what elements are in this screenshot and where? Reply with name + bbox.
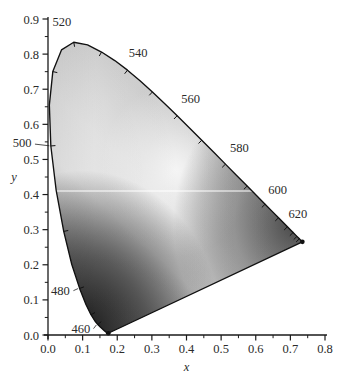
y-tick-label-0.8: 0.8 — [23, 48, 39, 62]
y-tick-label-0.7: 0.7 — [23, 83, 39, 97]
figure-canvas: 460480500520540560580600620 0.00.10.20.3… — [0, 0, 339, 374]
chromaticity-diagram-figure: 460480500520540560580600620 0.00.10.20.3… — [0, 0, 339, 374]
wavelength-label-600: 600 — [268, 183, 287, 197]
x-tick-label-0.7: 0.7 — [283, 342, 299, 356]
wavelength-label-500: 500 — [13, 136, 32, 150]
y-tick-label-0.4: 0.4 — [23, 188, 39, 202]
y-tick-label-0.6: 0.6 — [23, 118, 39, 132]
red-endpoint-dot — [300, 240, 305, 245]
y-tick-label-0.9: 0.9 — [23, 13, 39, 27]
wavelength-label-460: 460 — [72, 322, 91, 336]
wavelength-label-620: 620 — [289, 207, 308, 221]
wavelength-label-580: 580 — [230, 141, 249, 155]
y-tick-label-0.1: 0.1 — [23, 293, 39, 307]
x-axis-title: x — [183, 360, 190, 374]
y-tick-label-0.0: 0.0 — [23, 329, 39, 343]
y-tick-label-0.5: 0.5 — [23, 153, 39, 167]
x-tick-label-0.5: 0.5 — [213, 342, 229, 356]
wavelength-label-540: 540 — [129, 46, 148, 60]
x-tick-label-0.2: 0.2 — [109, 342, 125, 356]
y-axis-title: y — [9, 170, 17, 184]
wavelength-label-480: 480 — [51, 284, 70, 298]
wavelength-label-520: 520 — [52, 15, 71, 29]
x-tick-label-0.4: 0.4 — [179, 342, 195, 356]
wavelength-label-560: 560 — [181, 92, 200, 106]
x-tick-label-0.3: 0.3 — [144, 342, 160, 356]
x-tick-label-0.8: 0.8 — [317, 342, 333, 356]
x-tick-label-0.1: 0.1 — [75, 342, 91, 356]
y-tick-label-0.2: 0.2 — [23, 258, 39, 272]
y-tick-label-0.3: 0.3 — [23, 223, 39, 237]
x-tick-label-0.6: 0.6 — [248, 342, 264, 356]
x-tick-label-0.0: 0.0 — [40, 342, 56, 356]
x-axis-tick-labels: 0.00.10.20.30.40.50.60.70.8 — [40, 342, 333, 356]
